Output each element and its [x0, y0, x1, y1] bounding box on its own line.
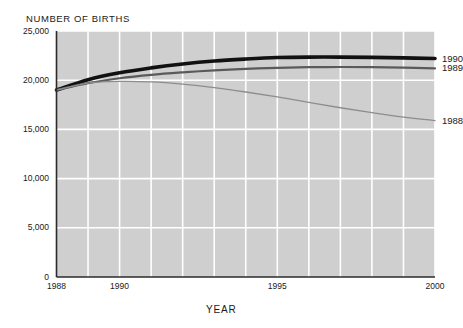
x-tick-label: 1988 [37, 281, 77, 291]
series-label-1989: 1989 [442, 62, 463, 73]
y-tick-label: 5,000 [5, 222, 49, 232]
x-axis-title: YEAR [206, 304, 236, 315]
y-tick-label: 0 [5, 272, 49, 282]
x-tick-label: 2000 [415, 281, 455, 291]
y-tick-label: 10,000 [5, 173, 49, 183]
series-label-1988: 1988 [442, 115, 463, 126]
y-tick-label: 20,000 [5, 75, 49, 85]
x-tick-label: 1995 [257, 281, 297, 291]
y-tick-label: 15,000 [5, 124, 49, 134]
x-tick-label: 1990 [100, 281, 140, 291]
y-tick-label: 25,000 [5, 26, 49, 36]
